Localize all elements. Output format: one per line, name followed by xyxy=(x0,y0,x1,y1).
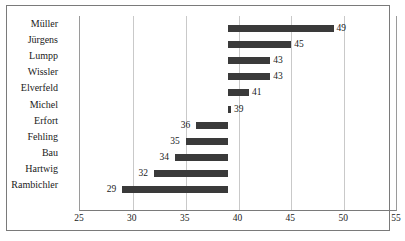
bar-value-label: 39 xyxy=(234,101,244,117)
bar-value-label: 36 xyxy=(181,117,191,133)
bar-row: 29 xyxy=(80,182,396,198)
category-label: Rambichler xyxy=(0,177,58,193)
bar-value-label: 41 xyxy=(252,84,262,100)
bar-row: 35 xyxy=(80,134,396,150)
bar[interactable] xyxy=(196,122,228,129)
bar[interactable] xyxy=(228,73,270,80)
category-label: Jürgens xyxy=(0,32,58,48)
bar[interactable] xyxy=(154,170,228,177)
bar-row: 36 xyxy=(80,118,396,134)
bar[interactable] xyxy=(186,138,228,145)
bar-row: 32 xyxy=(80,166,396,182)
x-tick-label: 50 xyxy=(328,213,358,223)
bar[interactable] xyxy=(228,25,334,32)
category-label: Wissler xyxy=(0,64,58,80)
x-tick-label: 40 xyxy=(223,213,253,223)
bar-row: 34 xyxy=(80,150,396,166)
category-label: Fehling xyxy=(0,129,58,145)
x-tick-label: 30 xyxy=(117,213,147,223)
x-tick-label: 45 xyxy=(275,213,305,223)
bar[interactable] xyxy=(228,106,231,113)
bar-rows: 4945434341393635343229 xyxy=(80,16,396,210)
bar-value-label: 49 xyxy=(337,20,347,36)
chart-frame: 4945434341393635343229 MüllerJürgensLump… xyxy=(6,5,390,231)
x-tick-label: 35 xyxy=(170,213,200,223)
bar-value-label: 45 xyxy=(294,36,304,52)
bar-value-label: 43 xyxy=(273,68,283,84)
bar[interactable] xyxy=(228,89,249,96)
category-label: Elverfeld xyxy=(0,80,58,96)
category-label: Hartwig xyxy=(0,161,58,177)
bar-row: 43 xyxy=(80,69,396,85)
bar-value-label: 29 xyxy=(107,181,117,197)
bar-value-label: 34 xyxy=(160,149,170,165)
x-tick-label: 55 xyxy=(381,213,405,223)
category-label: Bau xyxy=(0,145,58,161)
bar-value-label: 32 xyxy=(138,165,148,181)
category-label: Erfort xyxy=(0,113,58,129)
bar[interactable] xyxy=(228,41,291,48)
bar-row: 45 xyxy=(80,37,396,53)
category-label: Lumpp xyxy=(0,48,58,64)
bar-value-label: 43 xyxy=(273,52,283,68)
bar[interactable] xyxy=(175,154,228,161)
category-label: Müller xyxy=(0,16,58,32)
bar-row: 49 xyxy=(80,21,396,37)
x-tick-label: 25 xyxy=(64,213,94,223)
bar-row: 43 xyxy=(80,53,396,69)
bar-row: 39 xyxy=(80,102,396,118)
bar[interactable] xyxy=(122,186,228,193)
bar-value-label: 35 xyxy=(170,133,180,149)
bar-row: 41 xyxy=(80,85,396,101)
plot-area: 4945434341393635343229 xyxy=(79,16,397,211)
category-label: Michel xyxy=(0,97,58,113)
bar[interactable] xyxy=(228,57,270,64)
